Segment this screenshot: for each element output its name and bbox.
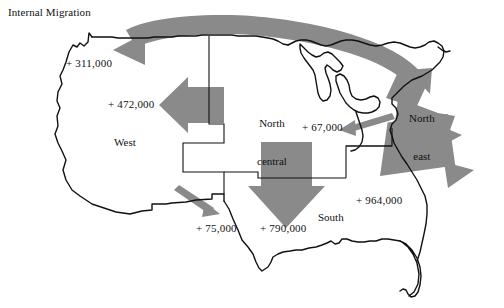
flow-value-311000: + 311,000 (66, 57, 112, 70)
flow-value-75000: + 75,000 (196, 222, 237, 235)
flow-value-472000: + 472,000 (108, 98, 155, 111)
flow-value-67000: + 67,000 (302, 121, 343, 134)
region-label-north-central-line1: North (257, 117, 287, 130)
flow-value-964000: + 964,000 (356, 194, 403, 207)
region-label-south: South (318, 211, 344, 224)
region-label-northeast: North east (409, 87, 435, 188)
region-label-northeast-line2: east (409, 150, 435, 163)
flow-arrow-northeast-to-west (113, 15, 432, 94)
flow-arrow-north-central-to-west (159, 77, 224, 133)
region-label-northeast-line1: North (409, 112, 435, 125)
figure-title: Internal Migration (8, 6, 91, 19)
internal-migration-figure: Internal Migration + 311,000 + 472,000 +… (0, 0, 504, 308)
region-label-north-central: North central (257, 92, 287, 193)
region-label-west: West (114, 136, 136, 149)
region-label-north-central-line2: central (257, 155, 287, 168)
flow-arrow-north-central-to-southwest (174, 185, 220, 217)
flow-value-790000: + 790,000 (260, 222, 307, 235)
